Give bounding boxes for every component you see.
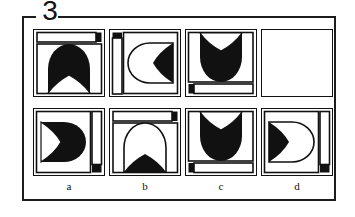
problem-cell-1[interactable] — [33, 29, 105, 97]
option-label-c: c — [185, 180, 257, 192]
frame-border-top-stub — [22, 16, 36, 18]
puzzle-number: 3 — [36, 0, 64, 26]
empty-answer-box — [261, 29, 333, 97]
frame-border-bottom — [22, 199, 336, 201]
figure-black-dome-white-pointed-arch — [33, 29, 105, 97]
frame-border-top — [58, 16, 336, 18]
problem-row — [33, 29, 333, 97]
figure-black-d-white-crescent — [33, 108, 105, 176]
puzzle-page: 3 — [0, 0, 355, 217]
figure-black-u-white-crescent — [185, 108, 257, 176]
option-labels: a b c d — [33, 180, 333, 192]
option-label-a: a — [33, 180, 105, 192]
problem-cell-4-missing[interactable] — [261, 29, 333, 97]
problem-cell-2[interactable] — [109, 29, 181, 97]
option-cell-a[interactable] — [33, 108, 105, 176]
frame-border-right — [334, 16, 336, 201]
option-label-b: b — [109, 180, 181, 192]
option-label-d: d — [261, 180, 333, 192]
figure-black-u-white-crescent — [185, 29, 257, 97]
frame-border-left — [22, 16, 24, 201]
figure-white-d-black-crescent — [261, 108, 333, 176]
problem-cell-3[interactable] — [185, 29, 257, 97]
option-cell-b[interactable] — [109, 108, 181, 176]
figure-white-dome-black-pointed-arch — [109, 108, 181, 176]
answer-options-row — [33, 108, 333, 176]
figure-white-dome-black-crescent — [109, 29, 181, 97]
option-cell-d[interactable] — [261, 108, 333, 176]
option-cell-c[interactable] — [185, 108, 257, 176]
